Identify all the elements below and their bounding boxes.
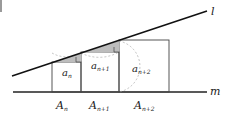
corner-mark [0,0,2,12]
side-label-n-plus-1: an+1 [91,60,110,72]
square-n-plus-2 [119,40,169,92]
squares-between-lines-diagram: l m an an+1 an+2 An An+1 An+2 [0,0,229,116]
base-label-n-plus-2: An+2 [133,99,155,112]
base-label-n: An [55,99,68,112]
side-label-n: an [62,67,72,79]
line-l-label: l [211,5,215,18]
square-n-plus-1 [81,52,119,92]
base-label-n-plus-1: An+1 [88,99,110,112]
line-m-label: m [210,85,220,98]
side-label-n-plus-2: an+2 [132,63,151,75]
